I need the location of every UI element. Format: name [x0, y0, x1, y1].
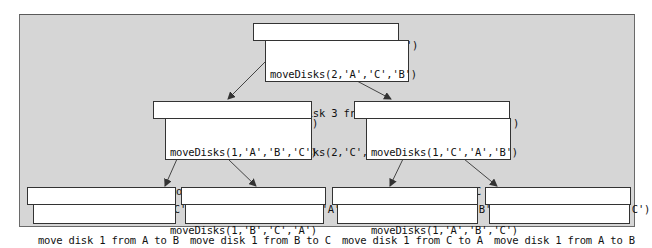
- root-body-line-1: moveDisks(2,'A','C','B'): [270, 68, 405, 81]
- right-call-box: moveDisks(2,'C','B','A'): [354, 101, 510, 119]
- left-body-line-1: moveDisks(1,'A','B','C'): [170, 146, 308, 159]
- leaf4-call-box: moveDisks(1,'A','B','C'): [485, 187, 631, 205]
- root-call-box: moveDisks(3,'A','B','C'): [253, 23, 399, 41]
- root-body-box: moveDisks(2,'A','C','B') move disk 3 fro…: [265, 40, 409, 82]
- leaf3-call-box: moveDisks(1,'C','A','B'): [332, 187, 478, 205]
- leaf3-body-line-1: move disk 1 from C to A: [342, 234, 474, 247]
- leaf3-body-box: move disk 1 from C to A: [337, 204, 478, 224]
- left-body-box: moveDisks(1,'A','B','C') move disk 2 fro…: [165, 118, 312, 160]
- left-call-box: moveDisks(2,'A','C','B'): [153, 101, 312, 119]
- leaf1-body-line-1: move disk 1 from A to B: [38, 234, 172, 247]
- leaf1-body-box: move disk 1 from A to B: [33, 204, 176, 224]
- leaf1-call-box: moveDisks(1,'A','B','C'): [27, 187, 176, 205]
- leaf4-body-line-1: move disk 1 from A to B: [494, 234, 626, 247]
- right-body-box: moveDisks(1,'C','A','B') move disk 2 fro…: [366, 118, 511, 160]
- leaf2-body-line-1: move disk 1 from B to C: [190, 234, 320, 247]
- right-body-line-1: moveDisks(1,'C','A','B'): [371, 146, 507, 159]
- leaf2-body-box: move disk 1 from B to C: [185, 204, 324, 224]
- leaf2-call-box: moveDisks(1,'B','C','A'): [181, 187, 326, 205]
- leaf4-body-box: move disk 1 from A to B: [489, 204, 630, 224]
